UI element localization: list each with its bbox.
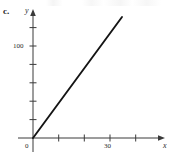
figure-panel: c. y x 100 30 0 — [0, 0, 173, 160]
y-axis-label: y — [25, 7, 29, 15]
y-axis-arrow-icon — [30, 9, 36, 16]
x-axis-arrow-icon — [158, 135, 165, 141]
data-line-series — [33, 17, 122, 138]
x-tick-label-30: 30 — [104, 143, 111, 150]
plot-area — [0, 0, 173, 160]
origin-label: 0 — [25, 143, 29, 150]
x-axis-label: x — [163, 142, 167, 150]
y-tick-label-100: 100 — [13, 43, 24, 50]
